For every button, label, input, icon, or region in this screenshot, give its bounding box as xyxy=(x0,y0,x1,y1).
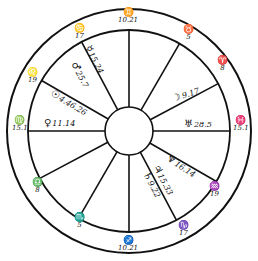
cusp-label-mc: ♊10.21 xyxy=(118,8,138,24)
house-cusp-line xyxy=(79,152,118,219)
cusp-label-h11: ♋17 xyxy=(74,24,85,40)
cusp-degree: 19 xyxy=(209,191,220,198)
horoscope-wheel xyxy=(0,0,258,261)
house-cusp-lines xyxy=(28,30,230,232)
cusp-label-h5: ♑17 xyxy=(178,221,189,237)
cusp-degree: 10.21 xyxy=(118,245,138,252)
cusp-degree: 17 xyxy=(74,33,85,40)
uranus-icon: ♅ xyxy=(184,118,193,129)
inner-circle xyxy=(105,107,153,155)
cusp-degree: 8 xyxy=(32,187,43,194)
cusp-label-h6: ♒19 xyxy=(209,182,220,198)
cusp-degree: 19 xyxy=(27,77,38,84)
cusp-degree: 8 xyxy=(217,65,228,72)
cusp-label-h8: ♈8 xyxy=(217,56,228,72)
venus-icon: ♀ xyxy=(44,117,51,128)
cusp-label-h2: ♎8 xyxy=(32,178,43,194)
planet-position: 11.14 xyxy=(52,119,75,128)
cusp-degree: 15.1 xyxy=(12,125,28,132)
cusp-label-h3: ♏5 xyxy=(74,213,85,229)
cusp-label-h12: ♌19 xyxy=(27,68,38,84)
planet-uranus: ♅28.5 xyxy=(184,119,212,129)
cusp-label-dsc: ♓15.1 xyxy=(233,116,249,132)
house-cusp-line xyxy=(40,142,108,178)
cusp-degree: 5 xyxy=(74,222,85,229)
cusp-label-ic: ♐10.21 xyxy=(118,236,138,252)
cusp-degree: 17 xyxy=(178,230,189,237)
planet-venus: ♀11.14 xyxy=(44,118,75,128)
cusp-degree: 15.1 xyxy=(233,125,249,132)
cusp-degree: 5 xyxy=(183,34,194,41)
cusp-label-asc: ♍15.1 xyxy=(12,116,28,132)
cusp-degree: 10.21 xyxy=(118,17,138,24)
planet-position: 28.5 xyxy=(194,120,212,129)
cusp-label-h9: ♉5 xyxy=(183,25,194,41)
